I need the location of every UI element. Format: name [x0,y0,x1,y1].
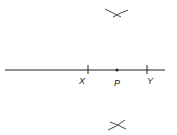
label-p: P [114,78,120,88]
label-x: X [78,76,86,86]
arc-intersection-bottom [108,120,126,130]
point-p [115,68,118,71]
arc-intersection-top [105,9,128,17]
label-y: Y [147,76,154,86]
construction-diagram: X P Y [0,0,177,135]
